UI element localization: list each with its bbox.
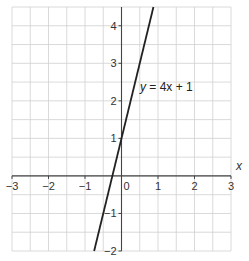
y-tick-label: −2 <box>104 245 117 257</box>
y-tick-label: 3 <box>110 57 116 69</box>
y-tick-label: −1 <box>104 207 117 219</box>
x-tick-label: −2 <box>42 180 55 192</box>
x-tick-label: −1 <box>79 180 92 192</box>
x-tick-label: 2 <box>191 180 197 192</box>
y-tick-label: 4 <box>110 20 116 32</box>
equation-rest: = 4x + 1 <box>146 80 193 94</box>
x-axis-label: x <box>235 159 243 173</box>
equation-label: y = 4x + 1 <box>139 80 193 94</box>
x-tick-label: 0 <box>123 180 129 192</box>
x-tick-label: 1 <box>155 180 161 192</box>
y-tick-label: 2 <box>110 95 116 107</box>
y-tick-label: 1 <box>110 132 116 144</box>
x-tick-label: 3 <box>228 180 234 192</box>
line-chart: −3−2−10123−2−11234 x y = 4x + 1 <box>0 0 249 261</box>
x-tick-label: −3 <box>6 180 19 192</box>
axes <box>12 7 231 251</box>
